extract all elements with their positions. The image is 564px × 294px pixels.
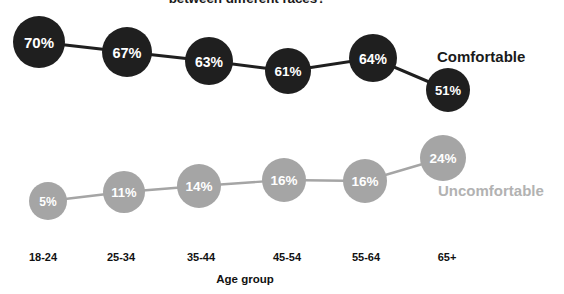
legend-label-uncomfortable: Uncomfortable — [438, 182, 544, 199]
data-point-value-label: 61% — [274, 64, 301, 79]
data-point-value-label: 64% — [359, 51, 388, 67]
data-point-value-label: 11% — [111, 185, 137, 200]
data-point-value-label: 51% — [435, 83, 461, 98]
legend-label-comfortable: Comfortable — [437, 48, 525, 65]
data-point-value-label: 24% — [429, 151, 456, 166]
x-tick-label: 65+ — [407, 251, 487, 263]
data-point-value-label: 63% — [195, 54, 224, 70]
series-comfortable: 70%67%63%61%64%51% — [13, 16, 470, 112]
x-tick-label: 25-34 — [81, 251, 161, 263]
x-tick-label: 55-64 — [326, 251, 406, 263]
data-point-value-label: 16% — [270, 173, 297, 188]
x-axis-title: Age group — [165, 273, 325, 285]
chart-container: between different races? 70%67%63%61%64%… — [0, 0, 564, 294]
data-point-value-label: 5% — [39, 195, 57, 209]
chart-plot-area: 70%67%63%61%64%51%5%11%14%16%16%24% Comf… — [0, 0, 564, 294]
data-point-value-label: 67% — [112, 45, 141, 61]
series-layer: 70%67%63%61%64%51%5%11%14%16%16%24% — [13, 16, 470, 220]
x-tick-label: 45-54 — [247, 251, 327, 263]
data-point-value-label: 70% — [24, 34, 54, 51]
data-point-value-label: 16% — [351, 174, 378, 189]
x-tick-label: 18-24 — [3, 251, 83, 263]
series-uncomfortable: 5%11%14%16%16%24% — [29, 135, 466, 220]
data-point-value-label: 14% — [185, 179, 212, 194]
x-tick-label: 35-44 — [161, 251, 241, 263]
